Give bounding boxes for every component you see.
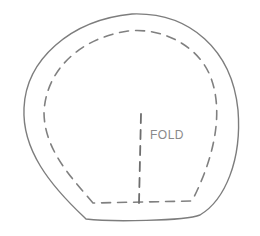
cutting-outline (24, 14, 239, 221)
seam-allowance-line (44, 31, 217, 203)
pattern-diagram: FOLD (0, 0, 260, 236)
fold-label: FOLD (150, 128, 184, 142)
fold-line (139, 114, 141, 203)
